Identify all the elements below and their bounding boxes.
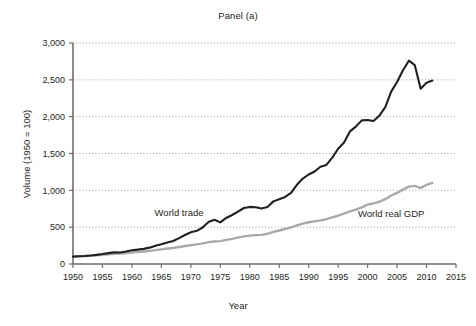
series-label-world-trade: World trade — [155, 207, 204, 218]
y-tick-label: 2,500 — [42, 75, 65, 85]
y-tick-label: 2,000 — [42, 112, 65, 122]
x-axis-title: Year — [0, 300, 476, 311]
x-tick-label: 1985 — [269, 272, 289, 282]
x-tick-label: 2015 — [446, 272, 466, 282]
y-axis-title: Volume (1950 = 100) — [21, 110, 32, 198]
x-axis-ticks-group: 1950195519601965197019751980198519901995… — [63, 264, 466, 282]
y-tick-label: 0 — [60, 259, 65, 269]
x-tick-label: 1970 — [181, 272, 201, 282]
x-tick-label: 1980 — [240, 272, 260, 282]
x-tick-label: 1955 — [92, 272, 112, 282]
chart-figure: Panel (a) 05001,0001,5002,0002,5003,000 … — [0, 0, 476, 326]
x-tick-label: 2010 — [417, 272, 437, 282]
line-chart-svg: 05001,0001,5002,0002,5003,000 1950195519… — [0, 0, 476, 326]
y-tick-label: 1,500 — [42, 149, 65, 159]
series-line-world-real-gdp — [73, 183, 432, 257]
x-tick-label: 2005 — [387, 272, 407, 282]
x-tick-label: 1965 — [151, 272, 171, 282]
x-tick-label: 1960 — [122, 272, 142, 282]
series-label-world-real-gdp: World real GDP — [358, 208, 424, 219]
y-tick-label: 1,000 — [42, 186, 65, 196]
y-tick-label: 500 — [50, 222, 65, 232]
x-tick-label: 1975 — [210, 272, 230, 282]
y-tick-label: 3,000 — [42, 38, 65, 48]
gridlines-group — [73, 43, 456, 227]
x-tick-label: 2000 — [358, 272, 378, 282]
x-tick-label: 1950 — [63, 272, 83, 282]
y-axis-ticks-group: 05001,0001,5002,0002,5003,000 — [42, 38, 73, 269]
x-tick-label: 1990 — [299, 272, 319, 282]
series-annotations-group: World tradeWorld real GDP — [155, 207, 425, 219]
x-tick-label: 1995 — [328, 272, 348, 282]
